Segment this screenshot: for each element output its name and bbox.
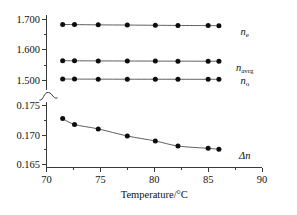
y-tick-label-lower: 0.175 (16, 100, 40, 111)
data-point-marker (72, 122, 77, 127)
data-point-marker (72, 58, 77, 63)
data-point-marker (175, 59, 180, 64)
figure-container: 1.5001.6001.7000.1650.1700.1757075808590… (0, 0, 297, 215)
data-point-marker (60, 77, 65, 82)
data-point-marker (216, 59, 221, 64)
y-tick-label-lower: 0.170 (16, 130, 40, 141)
data-point-marker (206, 23, 211, 28)
series-label-n_avrg: navrg (236, 62, 254, 75)
series-label-n_o: no (240, 75, 249, 88)
series-n_avrg (60, 58, 221, 64)
x-axis-title: Temperature/°C (121, 189, 188, 200)
data-point-marker (72, 22, 77, 27)
data-point-marker (153, 138, 158, 143)
data-point-marker (60, 58, 65, 63)
data-point-marker (175, 143, 180, 148)
series-label-n_e: ne (241, 26, 249, 39)
series-label-delta_n: Δn (238, 150, 250, 161)
data-point-marker (60, 22, 65, 27)
data-point-marker (216, 23, 221, 28)
data-point-marker (153, 23, 158, 28)
x-tick-label: 85 (203, 174, 214, 185)
series-n_e (60, 22, 221, 28)
data-point-marker (153, 77, 158, 82)
data-point-marker (216, 147, 221, 152)
data-point-marker (60, 116, 65, 121)
series-line-n_avrg (63, 61, 219, 62)
chart-canvas: 1.5001.6001.7000.1650.1700.1757075808590… (0, 0, 297, 215)
data-point-marker (206, 59, 211, 64)
data-point-marker (216, 77, 221, 82)
x-tick-label: 80 (149, 174, 160, 185)
series-line-n_e (63, 24, 219, 25)
series-delta_n (60, 116, 221, 152)
series-line-delta_n (63, 119, 219, 150)
data-point-marker (96, 22, 101, 27)
x-tick-label: 70 (41, 174, 52, 185)
y-tick-label-lower: 0.165 (16, 159, 40, 170)
data-point-marker (153, 59, 158, 64)
data-point-marker (125, 59, 130, 64)
data-point-marker (125, 77, 130, 82)
data-point-marker (175, 77, 180, 82)
data-point-marker (96, 58, 101, 63)
x-tick-label: 75 (95, 174, 106, 185)
data-point-marker (175, 23, 180, 28)
data-point-marker (96, 77, 101, 82)
data-point-marker (125, 23, 130, 28)
y-tick-label-upper: 1.700 (16, 14, 40, 25)
x-tick-label: 90 (257, 174, 268, 185)
data-point-marker (125, 133, 130, 138)
data-point-marker (206, 77, 211, 82)
data-point-marker (206, 146, 211, 151)
axis-break-squiggle-icon (40, 92, 58, 100)
series-n_o (60, 77, 221, 82)
y-tick-label-upper: 1.600 (16, 44, 40, 55)
y-tick-label-upper: 1.500 (16, 75, 40, 86)
data-point-marker (96, 126, 101, 131)
data-point-marker (72, 77, 77, 82)
